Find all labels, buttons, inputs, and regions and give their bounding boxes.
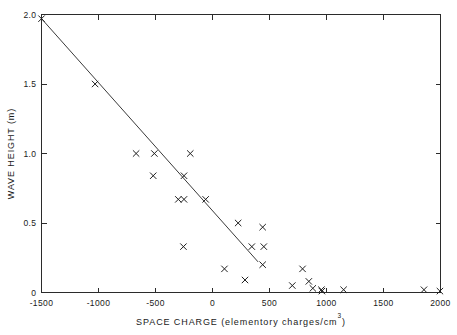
data-point-marker bbox=[151, 150, 157, 156]
data-point-marker bbox=[175, 196, 181, 202]
data-point-marker bbox=[340, 287, 346, 293]
data-point-marker bbox=[235, 220, 241, 226]
data-point-marker bbox=[92, 81, 98, 87]
data-point-marker bbox=[310, 285, 316, 291]
data-point-marker bbox=[437, 288, 443, 294]
regression-fit-line bbox=[42, 19, 259, 262]
data-point-marker bbox=[150, 173, 156, 179]
data-point-marker bbox=[202, 196, 208, 202]
data-point-marker bbox=[299, 266, 305, 272]
y-tick-label: 0 bbox=[31, 288, 36, 298]
chart-canvas: -1500-1000-500050010001500200000.51.01.5… bbox=[0, 0, 457, 335]
data-point-marker bbox=[259, 224, 265, 230]
data-point-marker bbox=[306, 278, 312, 284]
data-point-marker bbox=[133, 150, 139, 156]
x-tick-label: 2000 bbox=[430, 298, 451, 308]
scatter-chart-figure: -1500-1000-500050010001500200000.51.01.5… bbox=[0, 0, 457, 335]
y-tick-label: 1.0 bbox=[23, 149, 36, 159]
data-point-marker bbox=[261, 243, 267, 249]
data-point-marker bbox=[259, 262, 265, 268]
data-point-marker bbox=[242, 277, 248, 283]
x-tick-label: 0 bbox=[210, 298, 215, 308]
y-tick-label: 2.0 bbox=[23, 10, 36, 20]
data-point-marker bbox=[289, 282, 295, 288]
data-point-marker bbox=[421, 287, 427, 293]
x-axis-title: SPACE CHARGE (elementory charges/cm3) bbox=[136, 311, 346, 327]
x-tick-label: 1500 bbox=[373, 298, 394, 308]
data-point-marker bbox=[187, 150, 193, 156]
x-tick-label: 500 bbox=[262, 298, 277, 308]
plot-frame bbox=[42, 15, 441, 293]
y-tick-label: 0.5 bbox=[23, 218, 36, 228]
data-point-marker bbox=[249, 243, 255, 249]
x-tick-label: 1000 bbox=[316, 298, 337, 308]
x-tick-label: -1500 bbox=[30, 298, 54, 308]
y-axis-title: WAVE HEIGHT (m) bbox=[6, 108, 16, 199]
data-point-marker bbox=[180, 243, 186, 249]
x-tick-label: -500 bbox=[146, 298, 165, 308]
data-point-marker bbox=[221, 266, 227, 272]
y-tick-label: 1.5 bbox=[23, 79, 36, 89]
data-point-marker bbox=[181, 196, 187, 202]
x-tick-label: -1000 bbox=[87, 298, 111, 308]
data-point-group bbox=[38, 15, 443, 294]
